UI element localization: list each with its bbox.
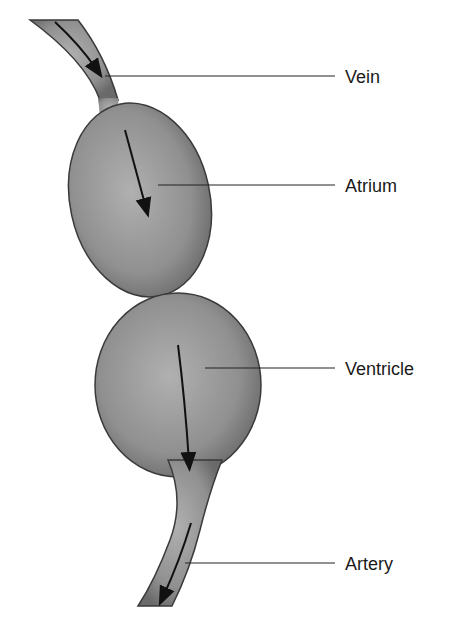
label-artery: Artery (345, 555, 393, 573)
label-ventricle: Ventricle (345, 360, 414, 378)
label-vein: Vein (345, 68, 380, 86)
vein-shape (30, 20, 118, 100)
ventricle-shape (95, 293, 261, 477)
label-atrium: Atrium (345, 177, 397, 195)
artery-shape (138, 460, 222, 606)
atrium-shape (51, 90, 229, 311)
heart-diagram (0, 0, 450, 620)
